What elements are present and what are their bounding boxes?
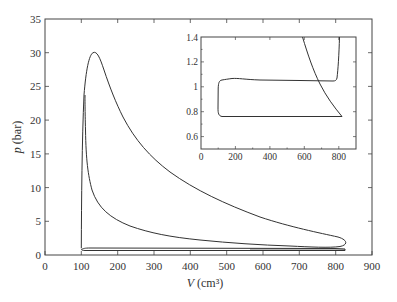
y-tick-20: 20 [30, 114, 42, 126]
inset-x-tick-labels: 0 200 400 600 800 [199, 152, 347, 162]
y-tick-25: 25 [30, 80, 42, 92]
x-tick-700: 700 [291, 260, 308, 272]
x-tick-500: 500 [218, 260, 235, 272]
inset-axes-frame [201, 37, 356, 149]
inset-x-tick-400: 400 [263, 152, 278, 162]
inset-x-tick-0: 0 [199, 152, 204, 162]
x-axis-label: V (cm³) [187, 276, 224, 290]
x-tick-800: 800 [327, 260, 344, 272]
y-tick-5: 5 [36, 215, 42, 227]
y-tick-0: 0 [36, 249, 42, 261]
main-y-tick-labels: 0 5 10 15 20 25 30 35 [30, 13, 42, 261]
y-tick-10: 10 [30, 182, 42, 194]
inset-chart: 0 200 400 600 800 0.6 0.8 1 1.2 1.4 [186, 33, 356, 162]
y-tick-35: 35 [30, 13, 42, 25]
inset-y-tick-1: 1 [193, 82, 198, 92]
x-tick-100: 100 [73, 260, 90, 272]
inset-x-tick-600: 600 [297, 152, 312, 162]
y-tick-30: 30 [30, 47, 42, 59]
main-pumping-loop-fill [250, 248, 345, 250]
pv-diagram: 0 100 200 300 400 500 600 700 800 900 0 … [0, 0, 397, 302]
inset-y-tick-1.2: 1.2 [186, 57, 198, 67]
inset-x-tick-200: 200 [228, 152, 243, 162]
inset-y-tick-0.8: 0.8 [186, 107, 198, 117]
x-tick-0: 0 [42, 260, 48, 272]
inset-y-tick-1.4: 1.4 [186, 33, 198, 43]
main-x-tick-labels: 0 100 200 300 400 500 600 700 800 900 [42, 260, 381, 272]
x-tick-300: 300 [146, 260, 163, 272]
inset-y-tick-0.6: 0.6 [186, 132, 198, 142]
y-axis-label: p (bar) [10, 121, 24, 154]
inset-x-tick-800: 800 [332, 152, 347, 162]
x-tick-900: 900 [364, 260, 381, 272]
x-tick-400: 400 [182, 260, 199, 272]
x-tick-600: 600 [255, 260, 272, 272]
x-tick-200: 200 [109, 260, 126, 272]
inset-y-tick-labels: 0.6 0.8 1 1.2 1.4 [186, 33, 198, 142]
y-tick-15: 15 [30, 148, 42, 160]
